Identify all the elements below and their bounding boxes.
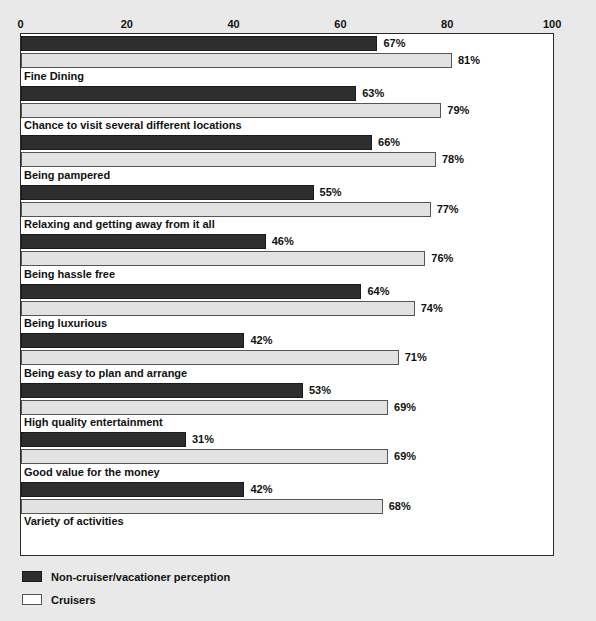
legend-item: Cruisers (22, 590, 442, 609)
bar-cruisers (21, 152, 436, 167)
bar-non-cruiser (21, 383, 303, 398)
category-label: Fine Dining (24, 69, 84, 84)
bar-row-non-cruiser: 55% (21, 185, 553, 200)
bar-value-cruisers: 69% (388, 449, 416, 464)
category-label: Being easy to plan and arrange (24, 366, 187, 381)
legend-swatch-light (22, 594, 42, 605)
bar-group: 55%77%Relaxing and getting away from it … (21, 185, 553, 233)
bar-row-non-cruiser: 66% (21, 135, 553, 150)
bar-value-cruisers: 79% (441, 103, 469, 118)
bar-cruisers (21, 350, 399, 365)
bar-non-cruiser (21, 36, 377, 51)
bar-non-cruiser (21, 135, 372, 150)
bar-non-cruiser (21, 185, 314, 200)
bar-value-cruisers: 77% (431, 202, 459, 217)
x-axis-tick-20: 20 (121, 16, 133, 32)
bar-cruisers (21, 202, 431, 217)
bar-value-cruisers: 71% (399, 350, 427, 365)
x-axis: 020406080100 (20, 16, 554, 32)
bar-row-cruisers: 71% (21, 350, 553, 365)
bar-group: 42%71%Being easy to plan and arrange (21, 333, 553, 381)
category-label: Variety of activities (24, 514, 124, 529)
legend-swatch-dark (22, 571, 42, 582)
bar-value-cruisers: 78% (436, 152, 464, 167)
bar-row-cruisers: 77% (21, 202, 553, 217)
bar-value-non-cruiser: 63% (356, 86, 384, 101)
bar-row-cruisers: 68% (21, 499, 553, 514)
bar-group: 63%79%Chance to visit several different … (21, 86, 553, 134)
bar-group: 31%69%Good value for the money (21, 432, 553, 480)
bar-value-non-cruiser: 55% (314, 185, 342, 200)
category-label: High quality entertainment (24, 415, 163, 430)
bar-row-cruisers: 76% (21, 251, 553, 266)
bar-value-non-cruiser: 42% (244, 333, 272, 348)
category-label: Good value for the money (24, 465, 160, 480)
bar-value-non-cruiser: 64% (361, 284, 389, 299)
bar-value-non-cruiser: 31% (186, 432, 214, 447)
bar-non-cruiser (21, 482, 244, 497)
bar-value-cruisers: 74% (415, 301, 443, 316)
bar-group: 67%81%Fine Dining (21, 36, 553, 84)
chart-legend: Non-cruiser/vacationer perceptionCruiser… (22, 567, 442, 613)
bar-value-non-cruiser: 53% (303, 383, 331, 398)
bar-value-cruisers: 76% (425, 251, 453, 266)
bar-value-cruisers: 81% (452, 53, 480, 68)
bar-row-non-cruiser: 53% (21, 383, 553, 398)
bar-cruisers (21, 103, 441, 118)
bar-group: 42%68%Variety of activities (21, 482, 553, 530)
bar-value-cruisers: 68% (383, 499, 411, 514)
bar-group: 66%78%Being pampered (21, 135, 553, 183)
legend-label: Cruisers (51, 594, 96, 606)
bar-row-non-cruiser: 42% (21, 333, 553, 348)
category-label: Being pampered (24, 168, 110, 183)
bar-row-cruisers: 74% (21, 301, 553, 316)
bar-value-non-cruiser: 66% (372, 135, 400, 150)
bar-row-cruisers: 81% (21, 53, 553, 68)
x-axis-tick-60: 60 (334, 16, 346, 32)
x-axis-tick-40: 40 (227, 16, 239, 32)
bar-non-cruiser (21, 333, 244, 348)
bar-group: 64%74%Being luxurious (21, 284, 553, 332)
bar-row-cruisers: 69% (21, 449, 553, 464)
category-label: Being hassle free (24, 267, 115, 282)
bar-value-non-cruiser: 46% (266, 234, 294, 249)
bar-row-non-cruiser: 64% (21, 284, 553, 299)
bar-row-non-cruiser: 67% (21, 36, 553, 51)
bar-non-cruiser (21, 234, 266, 249)
bar-value-non-cruiser: 67% (377, 36, 405, 51)
bar-row-non-cruiser: 31% (21, 432, 553, 447)
bar-cruisers (21, 449, 388, 464)
bar-chart: 020406080100 67%81%Fine Dining63%79%Chan… (0, 0, 596, 621)
bar-cruisers (21, 251, 425, 266)
legend-label: Non-cruiser/vacationer perception (51, 571, 230, 583)
bar-non-cruiser (21, 86, 356, 101)
bar-value-non-cruiser: 42% (244, 482, 272, 497)
bar-row-non-cruiser: 46% (21, 234, 553, 249)
bar-group: 53%69%High quality entertainment (21, 383, 553, 431)
bar-cruisers (21, 53, 452, 68)
x-axis-tick-80: 80 (441, 16, 453, 32)
bar-non-cruiser (21, 284, 361, 299)
bar-row-non-cruiser: 63% (21, 86, 553, 101)
bar-value-cruisers: 69% (388, 400, 416, 415)
bar-row-cruisers: 78% (21, 152, 553, 167)
x-axis-tick-0: 0 (18, 16, 24, 32)
bar-non-cruiser (21, 432, 186, 447)
bar-cruisers (21, 499, 383, 514)
plot-area: 67%81%Fine Dining63%79%Chance to visit s… (20, 33, 554, 556)
x-axis-tick-100: 100 (543, 16, 561, 32)
category-label: Being luxurious (24, 316, 107, 331)
bar-group: 46%76%Being hassle free (21, 234, 553, 282)
bar-cruisers (21, 400, 388, 415)
bar-cruisers (21, 301, 415, 316)
legend-item: Non-cruiser/vacationer perception (22, 567, 442, 586)
category-label: Relaxing and getting away from it all (24, 217, 215, 232)
bar-row-cruisers: 69% (21, 400, 553, 415)
bar-row-cruisers: 79% (21, 103, 553, 118)
category-label: Chance to visit several different locati… (24, 118, 242, 133)
bar-row-non-cruiser: 42% (21, 482, 553, 497)
